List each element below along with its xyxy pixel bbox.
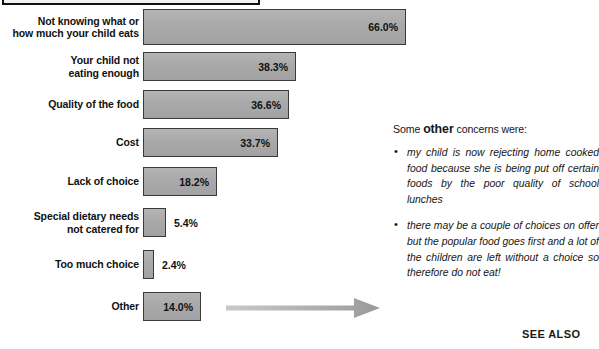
bar-value-label: 36.6% bbox=[251, 99, 288, 111]
bar-category-label: Your child not eating enough bbox=[0, 54, 143, 79]
bar-category-label: Too much choice bbox=[0, 258, 143, 271]
other-concerns-heading: Some other concerns were: bbox=[393, 122, 599, 136]
bar[interactable] bbox=[143, 250, 154, 279]
list-item-text: my child is now rejecting home cooked fo… bbox=[407, 147, 599, 205]
bar-wrap: 14.0% bbox=[143, 292, 201, 321]
see-also-label: SEE ALSO bbox=[522, 328, 580, 340]
bar-value-label: 33.7% bbox=[240, 137, 277, 149]
bar[interactable]: 18.2% bbox=[143, 167, 217, 196]
list-item: • there may be a couple of choices on of… bbox=[393, 218, 599, 280]
bar-row: Your child not eating enough 38.3% bbox=[0, 52, 420, 81]
bar-value-label: 2.4% bbox=[154, 259, 186, 271]
bar-category-label: Not knowing what or how much your child … bbox=[0, 15, 143, 40]
bar-category-label: Quality of the food bbox=[0, 98, 143, 111]
bar-row: Quality of the food 36.6% bbox=[0, 90, 420, 119]
bar-value-label: 66.0% bbox=[368, 21, 405, 33]
bar-category-label: Other bbox=[0, 300, 143, 313]
right-arrow-icon bbox=[226, 296, 380, 320]
heading-post-text: concerns were: bbox=[454, 123, 527, 135]
bar-row: Cost 33.7% bbox=[0, 128, 420, 157]
bar-wrap: 38.3% bbox=[143, 52, 296, 81]
bar-row: Not knowing what or how much your child … bbox=[0, 9, 420, 45]
bar[interactable] bbox=[143, 208, 166, 237]
other-concerns-panel: Some other concerns were: • my child is … bbox=[393, 122, 599, 292]
bar-value-label: 5.4% bbox=[166, 217, 198, 229]
bullet-icon: • bbox=[394, 217, 398, 233]
list-item-text: there may be a couple of choices on offe… bbox=[407, 220, 599, 278]
bar-wrap: 18.2% bbox=[143, 167, 217, 196]
bar[interactable]: 33.7% bbox=[143, 128, 278, 157]
bar-row: Lack of choice 18.2% bbox=[0, 167, 420, 196]
bar[interactable]: 66.0% bbox=[143, 9, 406, 45]
bar-wrap: 36.6% bbox=[143, 90, 289, 119]
bar-value-label: 38.3% bbox=[258, 61, 295, 73]
bar-category-label: Lack of choice bbox=[0, 175, 143, 188]
bullet-icon: • bbox=[394, 144, 398, 160]
bar-value-label: 18.2% bbox=[179, 176, 216, 188]
heading-emphasis-text: other bbox=[423, 122, 453, 136]
list-item: • my child is now rejecting home cooked … bbox=[393, 145, 599, 207]
bar-row: Too much choice 2.4% bbox=[0, 250, 420, 279]
heading-pre-text: Some bbox=[393, 123, 423, 135]
bar-value-label: 14.0% bbox=[163, 301, 200, 313]
bar[interactable]: 38.3% bbox=[143, 52, 296, 81]
bar-wrap: 66.0% bbox=[143, 9, 406, 45]
bar-category-label: Cost bbox=[0, 136, 143, 149]
bar-wrap: 2.4% bbox=[143, 250, 186, 279]
bar-wrap: 5.4% bbox=[143, 208, 198, 237]
bar-wrap: 33.7% bbox=[143, 128, 278, 157]
bar[interactable]: 14.0% bbox=[143, 292, 201, 321]
bar-category-label: Special dietary needs not catered for bbox=[0, 210, 143, 235]
other-concerns-list: • my child is now rejecting home cooked … bbox=[393, 145, 599, 281]
bar[interactable]: 36.6% bbox=[143, 90, 289, 119]
bar-row: Special dietary needs not catered for 5.… bbox=[0, 208, 420, 237]
